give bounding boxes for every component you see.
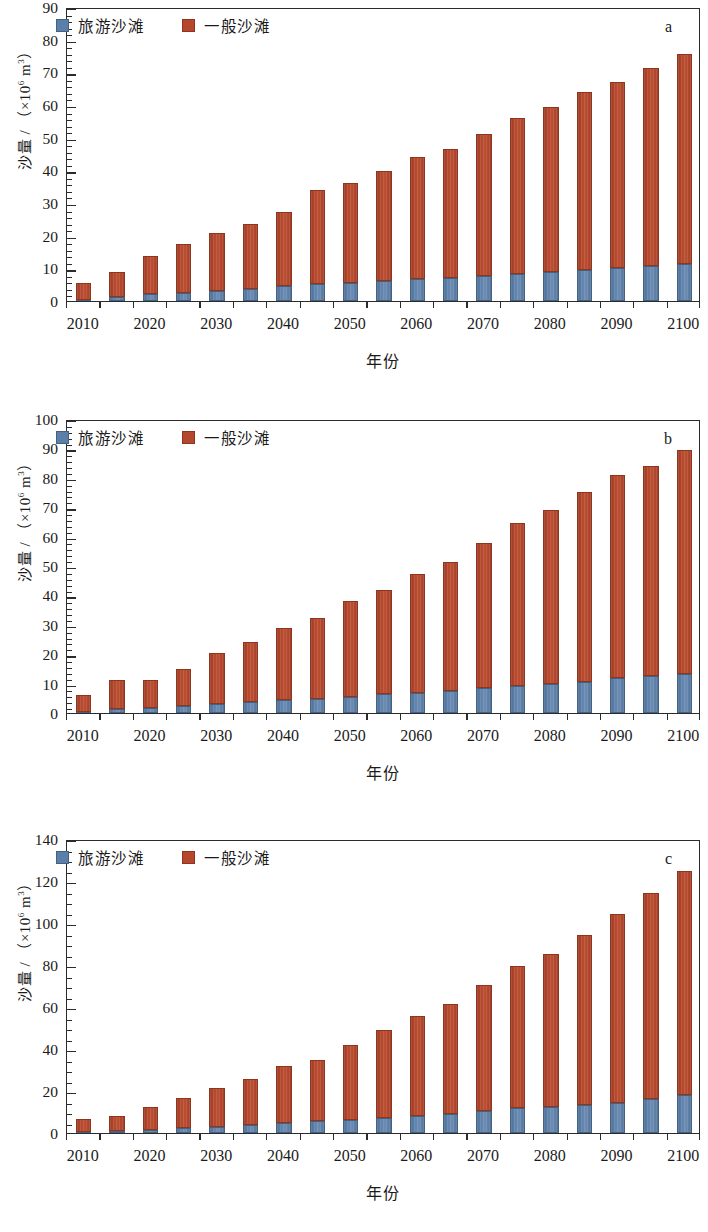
x-tick-label: 2070 — [467, 316, 499, 332]
bar-segment-tourist — [109, 297, 124, 301]
x-tick — [600, 1134, 601, 1140]
legend-item-general-c: 一般沙滩 — [182, 846, 270, 868]
bar-segment-general — [76, 695, 91, 712]
y-tick-label: 70 — [43, 500, 59, 516]
bar-segment-general — [310, 618, 325, 699]
bar-segment-tourist — [109, 709, 124, 713]
x-tick-label: 2040 — [267, 316, 299, 332]
bar-segment-tourist — [510, 274, 525, 301]
bar-2035 — [243, 224, 258, 301]
x-tick — [466, 1134, 467, 1140]
bar-segment-tourist — [610, 268, 625, 301]
x-tick-label: 2060 — [400, 1148, 432, 1164]
bar-segment-general — [610, 475, 625, 678]
bar-2100 — [677, 54, 692, 301]
bar-segment-general — [543, 954, 558, 1107]
y-tick-label: 40 — [43, 589, 59, 605]
bar-segment-tourist — [577, 1105, 592, 1133]
bar-2080 — [543, 954, 558, 1133]
x-tick — [233, 1134, 234, 1140]
bar-2090 — [610, 475, 625, 713]
plot-area-c — [66, 840, 700, 1134]
bar-segment-general — [577, 492, 592, 682]
bar-segment-general — [577, 92, 592, 270]
bar-segment-tourist — [176, 706, 191, 713]
bar-2085 — [577, 492, 592, 713]
bar-segment-general — [276, 628, 291, 700]
x-axis-ticks-a — [66, 302, 700, 310]
y-tick-label: 60 — [43, 98, 59, 114]
bar-2050 — [343, 183, 358, 301]
bar-segment-tourist — [376, 1118, 391, 1133]
bar-segment-general — [109, 272, 124, 297]
legend-label-general: 一般沙滩 — [204, 846, 270, 868]
bar-segment-general — [109, 1116, 124, 1132]
y-tick-label: 30 — [43, 196, 59, 212]
x-tick — [400, 1134, 401, 1140]
x-tick — [667, 302, 668, 308]
x-tick — [433, 1134, 434, 1140]
x-tick — [133, 1134, 134, 1140]
bar-segment-tourist — [510, 1108, 525, 1133]
legend-item-tourist-a: 旅游沙滩 — [56, 14, 144, 36]
bar-segment-general — [643, 68, 658, 266]
y-tick-label: 30 — [43, 618, 59, 634]
x-tick — [233, 302, 234, 308]
bar-segment-general — [276, 212, 291, 286]
x-tick-label: 2060 — [400, 316, 432, 332]
bar-segment-general — [410, 574, 425, 693]
y-tick-label: 40 — [43, 164, 59, 180]
x-tick-label: 2010 — [67, 316, 99, 332]
x-tick-label: 2050 — [334, 1148, 366, 1164]
bar-2060 — [410, 157, 425, 301]
x-tick — [433, 302, 434, 308]
bar-segment-general — [143, 1107, 158, 1130]
bar-segment-general — [343, 1045, 358, 1120]
bar-segment-general — [143, 680, 158, 709]
x-tick — [633, 302, 634, 308]
bar-segment-general — [376, 590, 391, 695]
bar-segment-tourist — [610, 678, 625, 713]
x-tick — [300, 302, 301, 308]
x-tick-label: 2090 — [601, 728, 633, 744]
x-tick — [300, 1134, 301, 1140]
x-tick — [633, 714, 634, 720]
y-tick-label: 0 — [50, 294, 58, 310]
bar-segment-general — [510, 523, 525, 686]
bar-group-a — [67, 9, 699, 301]
x-tick-label: 2030 — [200, 728, 232, 744]
x-tick — [99, 1134, 100, 1140]
x-tick — [466, 302, 467, 308]
bar-segment-tourist — [476, 276, 491, 301]
bar-segment-general — [176, 1098, 191, 1128]
bar-segment-general — [76, 283, 91, 300]
bar-2040 — [276, 212, 291, 301]
x-tick-label: 2040 — [267, 1148, 299, 1164]
bar-2085 — [577, 92, 592, 301]
bar-segment-tourist — [410, 1116, 425, 1133]
bar-segment-tourist — [643, 1099, 658, 1133]
y-tick-label: 120 — [35, 874, 58, 890]
bar-2010 — [76, 283, 91, 301]
bar-segment-general — [677, 54, 692, 263]
bar-segment-tourist — [510, 686, 525, 713]
x-tick — [266, 302, 267, 308]
bar-segment-tourist — [343, 697, 358, 713]
bar-2015 — [109, 680, 124, 713]
legend-item-tourist-c: 旅游沙滩 — [56, 846, 144, 868]
bar-segment-general — [610, 82, 625, 269]
bar-segment-tourist — [610, 1103, 625, 1133]
bar-2060 — [410, 574, 425, 713]
legend-label-tourist: 旅游沙滩 — [78, 426, 144, 448]
bar-2070 — [476, 985, 491, 1133]
bar-segment-general — [577, 935, 592, 1104]
x-tick-label: 2010 — [67, 728, 99, 744]
bar-segment-tourist — [176, 293, 191, 301]
x-tick — [667, 714, 668, 720]
y-tick-label: 50 — [43, 559, 59, 575]
bar-segment-tourist — [443, 691, 458, 713]
chart-panel-c: 沙量 / （×106 m3） 020406080100120140 201020… — [0, 832, 708, 1232]
panel-letter-a: a — [665, 18, 672, 36]
x-tick — [166, 302, 167, 308]
bar-segment-tourist — [209, 704, 224, 713]
